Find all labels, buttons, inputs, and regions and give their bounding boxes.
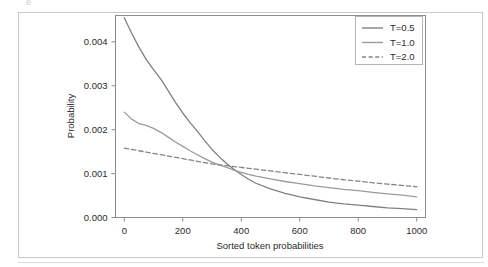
- y-axis-title: Probability: [65, 94, 76, 139]
- x-tick-label: 0: [122, 225, 127, 236]
- x-tick-label: 800: [350, 225, 366, 236]
- y-axis-ticks: 0.0000.0010.0020.0030.004: [84, 36, 116, 223]
- y-tick-label: 0.001: [84, 168, 108, 179]
- probability-chart: 0.0000.0010.0020.0030.004 02004006008001…: [0, 0, 488, 267]
- y-tick-label: 0.000: [84, 212, 108, 223]
- y-tick-label: 0.003: [84, 80, 108, 91]
- chart-legend[interactable]: T=0.5T=1.0T=2.0: [356, 17, 423, 65]
- x-tick-label: 400: [233, 225, 249, 236]
- legend-label-t-0-5: T=0.5: [390, 22, 415, 33]
- x-tick-label: 1000: [406, 225, 427, 236]
- y-tick-label: 0.004: [84, 36, 108, 47]
- legend-label-t-1-0: T=1.0: [390, 37, 415, 48]
- chart-svg: 0.0000.0010.0020.0030.004 02004006008001…: [0, 0, 488, 267]
- y-tick-label: 0.002: [84, 124, 108, 135]
- x-axis-ticks: 02004006008001000: [122, 218, 428, 236]
- page-rule: [18, 262, 484, 263]
- page-root: e 0.0000.0010.0020.0030.004 020040060080…: [0, 0, 488, 267]
- legend-label-t-2-0: T=2.0: [390, 51, 415, 62]
- x-tick-label: 200: [175, 225, 191, 236]
- x-tick-label: 600: [292, 225, 308, 236]
- x-axis-title: Sorted token probabilities: [216, 240, 323, 251]
